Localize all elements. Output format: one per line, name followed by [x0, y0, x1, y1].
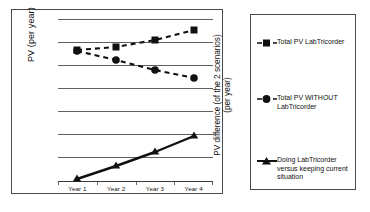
x-axis-label: Year 4 — [174, 185, 213, 197]
x-axis-label: Year 1 — [58, 185, 97, 197]
y-axis-right-title: PV difference (of the 2 scenarios) (per … — [213, 5, 232, 185]
triangle-marker-icon — [257, 156, 277, 166]
series-total-pv-without-labtricorder — [73, 47, 198, 82]
plot-area — [58, 19, 213, 182]
chart-screenshot: PV (per year) — [0, 0, 370, 212]
circle-marker-icon — [257, 94, 277, 104]
series-doing-labtricorder-vs-current — [73, 132, 198, 182]
y-axis-right-title-line2: (per year) — [223, 5, 233, 185]
legend-item-doing-labtricorder-vs-current: Doing LabTricorder versus keeping curren… — [257, 156, 357, 182]
series-total-pv-labtricorder — [74, 27, 198, 54]
legend-label: Doing LabTricorder versus keeping curren… — [277, 156, 357, 182]
square-marker-icon — [257, 38, 277, 48]
legend-item-total-pv-without-labtricorder: Total PV WITHOUT LabTricorder — [257, 94, 357, 111]
x-axis-label: Year 3 — [136, 185, 175, 197]
x-axis-labels: Year 1 Year 2 Year 3 Year 4 — [58, 185, 213, 197]
y-axis-right-title-line1: PV difference (of the 2 scenarios) — [213, 5, 223, 185]
chart-panel: PV (per year) — [11, 9, 223, 194]
legend-label: Total PV LabTricorder — [277, 38, 344, 47]
legend-label: Total PV WITHOUT LabTricorder — [277, 94, 357, 111]
y-axis-left-title: PV (per year) — [26, 0, 36, 62]
legend-item-total-pv-labtricorder: Total PV LabTricorder — [257, 38, 357, 48]
x-axis-label: Year 2 — [97, 185, 136, 197]
legend: Total PV LabTricorder Total PV WITHOUT L… — [250, 14, 356, 190]
series-layer — [58, 19, 213, 182]
